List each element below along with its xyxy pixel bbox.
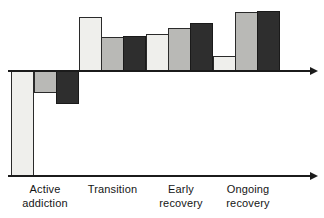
x-axis-label-3: Earlyrecovery	[145, 183, 217, 210]
bar-9	[190, 23, 213, 71]
baseline-axis-line	[8, 175, 314, 177]
x-axis-label-line-1: Transition	[75, 183, 150, 197]
bar-10	[213, 56, 236, 71]
bar-1	[11, 71, 34, 176]
bar-4	[79, 17, 102, 71]
zero-axis-line	[8, 70, 314, 72]
x-axis-label-line-2: recovery	[145, 197, 217, 211]
x-axis-label-2: Transition	[75, 183, 150, 197]
bar-6	[123, 36, 146, 71]
bar-2	[34, 71, 57, 93]
bar-5	[101, 37, 124, 71]
x-axis-label-line-2: addiction	[5, 197, 85, 211]
x-axis-label-line-1: Active	[5, 183, 85, 197]
x-axis-label-line-1: Ongoing	[208, 183, 288, 197]
x-axis-label-line-1: Early	[145, 183, 217, 197]
bar-8	[168, 28, 191, 71]
x-axis-label-1: Activeaddiction	[5, 183, 85, 210]
zero-axis-arrow-icon	[310, 67, 318, 75]
bar-7	[146, 34, 169, 71]
baseline-axis-arrow-icon	[310, 172, 318, 180]
bar-chart: ActiveaddictionTransitionEarlyrecoveryOn…	[0, 0, 324, 218]
bar-12	[257, 11, 280, 71]
bar-3	[56, 71, 79, 104]
x-axis-label-line-2: recovery	[208, 197, 288, 211]
x-axis-labels: ActiveaddictionTransitionEarlyrecoveryOn…	[0, 180, 324, 218]
x-axis-label-4: Ongoingrecovery	[208, 183, 288, 210]
plot-area	[0, 0, 324, 180]
bar-11	[235, 12, 258, 71]
